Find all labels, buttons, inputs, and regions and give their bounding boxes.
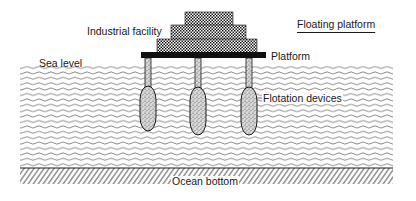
platform-deck (141, 52, 266, 58)
floating-platform-diagram: Floating platform Industrial facility Pl… (0, 0, 416, 201)
label-sea-level: Sea level (38, 58, 83, 69)
diagram-title: Floating platform (296, 19, 376, 30)
label-industrial-facility: Industrial facility (86, 26, 163, 37)
diagram-canvas (0, 0, 416, 201)
industrial-facility (157, 12, 257, 53)
label-platform: Platform (270, 51, 311, 62)
label-ocean-bottom: Ocean bottom (171, 176, 239, 187)
label-flotation-devices: Flotation devices (262, 93, 343, 104)
